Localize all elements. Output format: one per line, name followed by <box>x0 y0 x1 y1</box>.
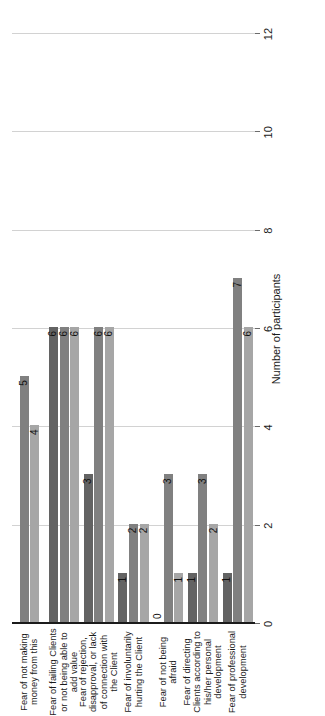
bar-group: 031 <box>151 32 186 622</box>
tick-mark <box>255 33 260 34</box>
bar: 6 <box>244 327 253 622</box>
tick-mark <box>255 328 260 329</box>
bar: 3 <box>164 475 173 623</box>
bar-group: 132 <box>186 32 221 622</box>
bar-value-label: 1 <box>174 577 184 583</box>
bar-value-label: 6 <box>70 331 80 337</box>
category-label: Fear of failing Clients or not being abl… <box>48 628 80 716</box>
bar-value-label: 3 <box>83 479 93 485</box>
bar: 1 <box>118 573 127 622</box>
bar-chart-figure: 02468101254666366122031132176 Number of … <box>0 0 325 716</box>
bar: 6 <box>70 327 79 622</box>
bar-value-label: 3 <box>163 479 173 485</box>
bar-value-label: 0 <box>153 613 163 619</box>
bar-value-label: 7 <box>233 282 243 288</box>
plot-area: 02468101254666366122031132176 <box>12 34 255 624</box>
bar-value-label: 6 <box>48 331 58 337</box>
tick-mark <box>255 525 260 526</box>
bar-value-label: 3 <box>198 479 208 485</box>
category-label: Fear of rejection, disapproval, or lack … <box>78 628 120 716</box>
tick-mark <box>255 131 260 132</box>
bar: 4 <box>30 425 39 622</box>
category-label: Fear of directing Clients according to h… <box>182 628 224 716</box>
bar-value-label: 1 <box>222 577 232 583</box>
bar-group: 366 <box>81 32 116 622</box>
bar: 2 <box>140 524 149 622</box>
bar-group: 176 <box>220 32 255 622</box>
category-label: Fear of involuntarily hurting the Client <box>123 628 144 716</box>
bar-value-label: 6 <box>59 331 69 337</box>
bar-group: 54 <box>12 32 47 622</box>
tick-mark <box>255 426 260 427</box>
bar: 6 <box>49 327 58 622</box>
bar-value-label: 2 <box>128 528 138 534</box>
bar-value-label: 4 <box>30 429 40 435</box>
bar: 2 <box>129 524 138 622</box>
bar: 3 <box>84 475 93 623</box>
bar: 6 <box>60 327 69 622</box>
value-axis-line <box>12 622 255 624</box>
tick-mark <box>255 623 260 624</box>
bar: 7 <box>233 278 242 622</box>
bar: 2 <box>209 524 218 622</box>
tick-mark <box>255 230 260 231</box>
bar-group: 122 <box>116 32 151 622</box>
bar-value-label: 6 <box>104 331 114 337</box>
bar-group: 666 <box>47 32 82 622</box>
bar-value-label: 1 <box>118 577 128 583</box>
category-label: Fear of not making money from this <box>19 628 40 716</box>
bar-value-label: 5 <box>19 380 29 386</box>
bar-value-label: 2 <box>209 528 219 534</box>
bar-value-label: 1 <box>187 577 197 583</box>
bar: 5 <box>20 376 29 622</box>
rotated-figure-wrapper: 02468101254666366122031132176 Number of … <box>0 0 325 716</box>
bar: 6 <box>105 327 114 622</box>
bar-value-label: 6 <box>94 331 104 337</box>
bar: 1 <box>188 573 197 622</box>
axis-title: Number of participants <box>270 34 282 624</box>
bar: 1 <box>174 573 183 622</box>
category-label: Fear of not being afraid <box>158 628 179 716</box>
bar: 3 <box>198 475 207 623</box>
bar-value-label: 6 <box>243 331 253 337</box>
bar-value-label: 2 <box>139 528 149 534</box>
bar: 6 <box>94 327 103 622</box>
category-label: Fear of professional development <box>227 628 248 716</box>
bar: 1 <box>223 573 232 622</box>
